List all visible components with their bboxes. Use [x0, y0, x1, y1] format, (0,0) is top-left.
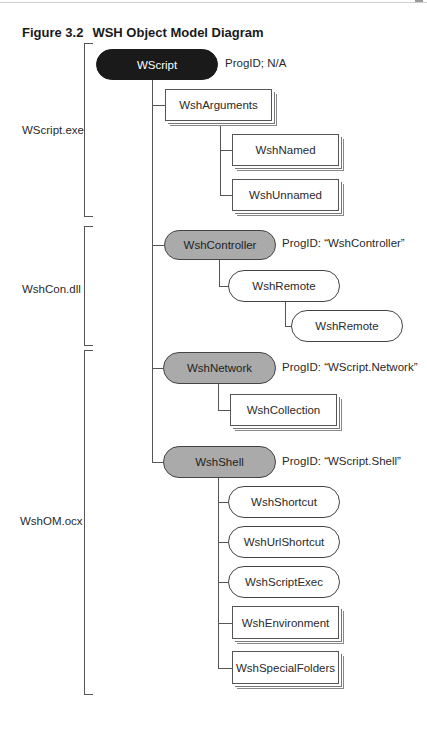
progid-wshnetwork: ProgID: “WScript.Network”: [282, 361, 417, 373]
node-wshscriptexec: WshScriptExec: [228, 566, 340, 598]
node-wshremote-2: WshRemote: [291, 310, 403, 342]
node-wshshortcut: WshShortcut: [228, 486, 340, 518]
node-wshurlshortcut: WshUrlShortcut: [228, 526, 340, 558]
group-label-wscript-exe: WScript.exe: [22, 124, 84, 136]
node-wshenvironment: WshEnvironment: [232, 606, 339, 639]
node-wshcollection: WshCollection: [230, 394, 337, 426]
node-wshremote-1: WshRemote: [228, 270, 340, 302]
page-corner-mark: [415, 0, 423, 2]
node-wsharguments: WshArguments: [165, 89, 272, 121]
figure-caption: Figure 3.2WSH Object Model Diagram: [22, 25, 264, 40]
node-wshcontroller: WshController: [164, 230, 276, 260]
group-label-wshom-ocx: WshOM.ocx: [20, 515, 83, 527]
node-wshspecialfolders: WshSpecialFolders: [232, 651, 339, 684]
progid-wshshell: ProgID: “WScript.Shell”: [282, 455, 401, 467]
progid-wscript: ProgID; N/A: [225, 57, 286, 69]
figure-number: Figure 3.2: [22, 25, 83, 40]
page-top-rule: [0, 2, 427, 3]
figure-title: WSH Object Model Diagram: [92, 25, 263, 40]
node-wshunnamed: WshUnnamed: [232, 179, 339, 211]
group-label-wshcon-dll: WshCon.dll: [22, 283, 81, 295]
node-wshnetwork: WshNetwork: [163, 352, 276, 384]
node-wshshell: WshShell: [163, 446, 276, 478]
node-wscript: WScript: [96, 49, 218, 80]
node-wshnamed: WshNamed: [232, 134, 339, 166]
progid-wshcontroller: ProgID: “WshController”: [282, 237, 405, 249]
